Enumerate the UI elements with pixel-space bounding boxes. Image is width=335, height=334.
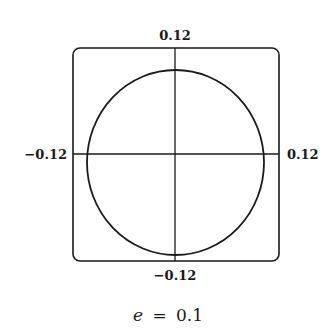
tick-label-bottom: −0.12 — [154, 268, 197, 283]
tick-label-top: 0.12 — [159, 28, 191, 43]
caption-value: 0.1 — [176, 305, 203, 325]
tick-label-right: 0.12 — [287, 147, 319, 162]
caption-variable: e — [133, 305, 143, 325]
chart-caption: e = 0.1 — [133, 305, 203, 325]
tick-label-left: −0.12 — [24, 147, 67, 162]
orbit-plot: 0.12 −0.12 −0.12 0.12 e = 0.1 — [0, 0, 335, 334]
caption-operator: = — [152, 305, 166, 325]
